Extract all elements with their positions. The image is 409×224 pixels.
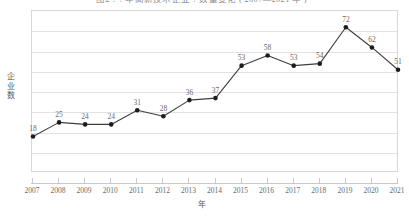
data-point-label: 31: [126, 99, 148, 107]
data-point-marker: [57, 120, 62, 125]
data-point-marker: [31, 134, 36, 139]
data-point-label: 72: [335, 16, 357, 24]
x-axis-tick: [241, 178, 242, 183]
chart-title: 图2 ? ? 年高新技术企业 ? 数量变化 ( 2007—2021 年 ): [0, 0, 403, 4]
x-axis-tick: [136, 178, 137, 183]
data-point-label: 25: [48, 111, 70, 119]
y-axis-title-char: 企: [4, 72, 17, 82]
data-point-marker: [109, 122, 114, 127]
x-axis-tick-label: 2021: [380, 186, 409, 196]
x-axis-tick: [32, 178, 33, 183]
data-point-marker: [370, 45, 375, 50]
data-point-marker: [161, 114, 166, 119]
data-point-marker: [239, 63, 244, 68]
x-axis-tick: [397, 178, 398, 183]
x-axis-tick: [84, 178, 85, 183]
data-point-label: 37: [205, 87, 227, 95]
x-axis-title: 年: [0, 200, 403, 210]
data-point-label: 28: [152, 105, 174, 113]
x-axis-tick: [371, 178, 372, 183]
x-axis-tick: [345, 178, 346, 183]
x-axis-tick: [162, 178, 163, 183]
data-point-marker: [317, 61, 322, 66]
data-point-label: 36: [178, 89, 200, 97]
data-point-label: 18: [22, 125, 44, 133]
data-point-label: 24: [100, 113, 122, 121]
x-axis-line: [31, 183, 398, 184]
y-axis-title-char: 数: [4, 91, 17, 101]
data-point-marker: [265, 53, 270, 58]
x-axis-tick: [188, 178, 189, 183]
data-point-marker: [213, 96, 218, 101]
x-axis-tick: [58, 178, 59, 183]
y-axis-title-char: 业: [4, 82, 17, 92]
data-point-label: 53: [283, 54, 305, 62]
data-point-label: 51: [387, 58, 409, 66]
data-point-label: 62: [361, 36, 383, 44]
data-point-marker: [344, 25, 349, 30]
data-point-marker: [187, 98, 192, 103]
data-point-label: 53: [231, 54, 253, 62]
x-axis-tick: [215, 178, 216, 183]
data-point-label: 54: [309, 52, 331, 60]
data-point-marker: [396, 67, 401, 72]
x-axis-tick: [110, 178, 111, 183]
x-axis-tick: [293, 178, 294, 183]
x-axis-tick: [319, 178, 320, 183]
plot-area: 182524243128363753585354726251: [31, 10, 398, 172]
data-point-label: 24: [74, 113, 96, 121]
data-point-marker: [83, 122, 88, 127]
data-point-marker: [135, 108, 140, 113]
y-axis-title: 企业数: [4, 72, 17, 101]
data-point-marker: [291, 63, 296, 68]
x-axis-tick: [267, 178, 268, 183]
data-point-label: 58: [257, 44, 279, 52]
